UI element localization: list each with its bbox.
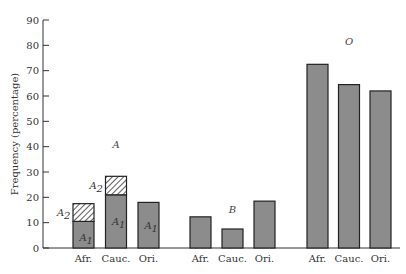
y-tick-label: 40 bbox=[26, 141, 39, 152]
y-tick-label: 20 bbox=[26, 192, 39, 203]
segment-label-a2: A bbox=[89, 180, 97, 191]
segment-label-a1: A bbox=[144, 220, 152, 231]
segment-label-subscript: 1 bbox=[152, 223, 158, 234]
segment-label-subscript: 1 bbox=[119, 219, 125, 230]
y-tick-label: 0 bbox=[33, 243, 39, 254]
segment-label-subscript: 1 bbox=[87, 235, 93, 246]
blood-group-frequency-chart: Frequency (percentage) 01020304050607080… bbox=[0, 0, 406, 274]
bar bbox=[339, 85, 360, 248]
segment-label-a1: A bbox=[79, 232, 87, 243]
segment-label-a1: A bbox=[111, 216, 119, 227]
bar bbox=[307, 64, 328, 248]
bar bbox=[190, 217, 211, 248]
category-label: Afr. bbox=[74, 253, 93, 264]
y-tick-label: 90 bbox=[26, 15, 39, 26]
bar bbox=[254, 201, 275, 248]
category-label: Ori. bbox=[139, 253, 158, 264]
category-label: Afr. bbox=[191, 253, 210, 264]
y-tick-label: 60 bbox=[26, 91, 39, 102]
y-tick-label: 70 bbox=[26, 65, 39, 76]
y-tick-label: 50 bbox=[26, 116, 39, 127]
y-tick-label: 10 bbox=[26, 217, 39, 228]
category-label: Cauc. bbox=[335, 253, 364, 264]
y-axis-label: Frequency (percentage) bbox=[9, 73, 20, 196]
category-label: Cauc. bbox=[218, 253, 247, 264]
bar-segment-a2 bbox=[106, 176, 127, 194]
segment-label-a2: A bbox=[56, 207, 64, 218]
category-label: Afr. bbox=[308, 253, 327, 264]
y-tick-label: 30 bbox=[26, 167, 39, 178]
group-label: O bbox=[345, 36, 353, 47]
bar bbox=[370, 91, 391, 248]
bar bbox=[222, 229, 243, 248]
segment-label-subscript: 2 bbox=[63, 210, 70, 221]
segment-label-subscript: 2 bbox=[96, 183, 103, 194]
category-label: Ori. bbox=[371, 253, 390, 264]
group-label: B bbox=[228, 204, 236, 215]
bar-segment-a2 bbox=[73, 204, 94, 222]
group-label: A bbox=[111, 139, 119, 150]
category-label: Cauc. bbox=[102, 253, 131, 264]
y-tick-label: 80 bbox=[26, 40, 39, 51]
category-label: Ori. bbox=[255, 253, 274, 264]
